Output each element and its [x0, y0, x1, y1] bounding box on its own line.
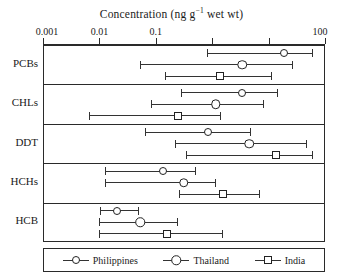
- errorbar-cap-low: [151, 100, 152, 108]
- errorbar-cap-low: [145, 128, 146, 136]
- data-marker-thailand: [211, 99, 221, 109]
- errorbar-cap-low: [89, 112, 90, 120]
- data-marker-india: [216, 72, 224, 80]
- errorbar-line: [186, 155, 313, 156]
- errorbar-cap-high: [306, 140, 307, 148]
- axis-title-exponent: −1: [196, 6, 204, 15]
- legend-item-india[interactable]: India: [255, 255, 306, 266]
- errorbar-cap-low: [99, 218, 100, 226]
- axis-title-pre: Concentration (ng g: [100, 8, 196, 20]
- legend-marker-icon: [255, 255, 281, 266]
- legend-label: India: [285, 255, 306, 266]
- errorbar-cap-low: [140, 61, 141, 69]
- plot-area: [43, 45, 325, 242]
- errorbar-philippines-ddt: [145, 127, 250, 138]
- errorbar-cap-high: [312, 151, 313, 159]
- errorbar-philippines-hchs: [105, 166, 196, 177]
- errorbar-cap-high: [250, 128, 251, 136]
- errorbar-thailand-ddt: [175, 138, 307, 149]
- legend-symbol-square: [264, 256, 272, 264]
- legend-label: Philippines: [93, 255, 138, 266]
- legend-symbol-circle-sm: [72, 256, 80, 264]
- category-label-chls: CHLs: [0, 96, 38, 108]
- errorbar-cap-low: [175, 140, 176, 148]
- category-label-hcb: HCB: [0, 214, 38, 226]
- row-separator: [44, 203, 324, 204]
- row-separator: [44, 84, 324, 85]
- errorbar-cap-high: [263, 100, 264, 108]
- errorbar-cap-low: [181, 89, 182, 97]
- errorbar-thailand-hchs: [105, 177, 216, 188]
- category-label-ddt: DDT: [0, 136, 38, 148]
- legend-symbol-circle-lg: [172, 255, 182, 265]
- errorbar-line: [105, 171, 196, 172]
- errorbar-cap-high: [177, 218, 178, 226]
- x-tick-label: 0.1: [150, 26, 163, 37]
- errorbar-cap-high: [215, 179, 216, 187]
- legend-label: Thailand: [193, 255, 229, 266]
- data-marker-philippines: [204, 128, 212, 136]
- legend-item-philippines[interactable]: Philippines: [63, 255, 138, 266]
- concentration-chart: Concentration (ng g−1 wet wt) 0.0010.010…: [0, 0, 343, 277]
- errorbar-cap-high: [312, 49, 313, 57]
- row-separator: [44, 124, 324, 125]
- errorbar-cap-high: [222, 230, 223, 238]
- data-marker-philippines: [280, 49, 288, 57]
- category-label-hchs: HCHs: [0, 175, 38, 187]
- errorbar-cap-high: [292, 61, 293, 69]
- errorbar-cap-low: [105, 167, 106, 175]
- errorbar-cap-low: [179, 190, 180, 198]
- data-marker-philippines: [113, 207, 121, 215]
- legend-marker-icon: [63, 255, 89, 266]
- x-tick-label: 100: [313, 26, 328, 37]
- axis-title: Concentration (ng g−1 wet wt): [0, 8, 343, 20]
- errorbar-cap-high: [259, 190, 260, 198]
- axis-title-post: wet wt): [204, 8, 243, 20]
- legend-marker-icon: [163, 255, 189, 266]
- category-label-pcbs: PCBs: [0, 57, 38, 69]
- errorbar-india-hcb: [99, 228, 223, 239]
- errorbar-india-ddt: [186, 150, 313, 161]
- errorbar-india-pcbs: [165, 71, 272, 82]
- data-marker-thailand: [245, 139, 255, 149]
- data-marker-thailand: [179, 178, 189, 188]
- errorbar-philippines-chls: [181, 87, 278, 98]
- errorbar-line: [140, 64, 293, 65]
- x-axis-tick: [325, 38, 326, 44]
- errorbar-philippines-hcb: [100, 205, 139, 216]
- row-separator: [44, 163, 324, 164]
- errorbar-cap-high: [220, 112, 221, 120]
- errorbar-cap-low: [99, 230, 100, 238]
- errorbar-line: [181, 92, 278, 93]
- data-marker-thailand: [136, 218, 146, 228]
- data-marker-india: [219, 190, 227, 198]
- errorbar-cap-low: [207, 49, 208, 57]
- errorbar-line: [105, 182, 216, 183]
- errorbar-thailand-hcb: [99, 217, 178, 228]
- errorbar-line: [99, 233, 223, 234]
- errorbar-cap-low: [105, 179, 106, 187]
- errorbar-line: [89, 115, 222, 116]
- errorbar-india-chls: [89, 110, 222, 121]
- errorbar-cap-low: [186, 151, 187, 159]
- data-marker-philippines: [159, 167, 167, 175]
- errorbar-india-hchs: [179, 189, 260, 200]
- x-tick-label: 0.001: [36, 26, 59, 37]
- errorbar-cap-high: [271, 72, 272, 80]
- data-marker-india: [174, 112, 182, 120]
- data-marker-thailand: [238, 60, 248, 70]
- errorbar-line: [151, 104, 263, 105]
- errorbar-thailand-pcbs: [140, 59, 293, 70]
- data-marker-india: [163, 230, 171, 238]
- data-marker-philippines: [238, 89, 246, 97]
- errorbar-cap-high: [277, 89, 278, 97]
- errorbar-cap-low: [100, 207, 101, 215]
- errorbar-cap-high: [195, 167, 196, 175]
- legend: PhilippinesThailandIndia: [43, 248, 325, 272]
- errorbar-philippines-pcbs: [207, 48, 313, 59]
- x-tick-label: 0.01: [91, 26, 109, 37]
- errorbar-cap-low: [165, 72, 166, 80]
- legend-item-thailand[interactable]: Thailand: [163, 255, 229, 266]
- errorbar-line: [175, 143, 307, 144]
- errorbar-thailand-chls: [151, 99, 263, 110]
